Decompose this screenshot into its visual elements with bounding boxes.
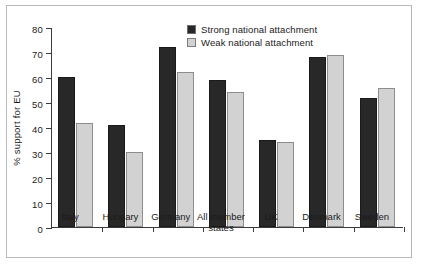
chart-legend: Strong national attachmentWeak national …	[187, 23, 317, 49]
y-tick-label: 70	[32, 49, 43, 60]
y-axis-title: % support for EU	[11, 90, 22, 166]
bar-group	[203, 28, 253, 227]
y-tick-mark: 0	[46, 228, 52, 229]
bar-weak	[378, 88, 395, 227]
legend-label: Weak national attachment	[201, 37, 313, 48]
x-separator-tick	[102, 227, 103, 232]
x-axis-label: Germany	[146, 212, 196, 223]
y-tick-label: 60	[32, 74, 43, 85]
y-tick-label: 10	[32, 199, 43, 210]
y-tick-label: 50	[32, 99, 43, 110]
x-separator-tick	[153, 227, 154, 232]
y-tick-label: 30	[32, 149, 43, 160]
bar-group	[253, 28, 303, 227]
legend-item: Strong national attachment	[187, 23, 317, 36]
x-separator-tick	[253, 227, 254, 232]
bar-strong	[159, 47, 176, 227]
x-separator-tick	[354, 227, 355, 232]
bar-strong	[309, 57, 326, 227]
x-axis-label: Italy	[45, 212, 95, 223]
bar-strong	[360, 98, 377, 227]
x-axis-label: Sweden	[347, 212, 397, 223]
bar-weak	[227, 92, 244, 227]
bar-series-container	[52, 28, 403, 227]
y-tick-label: 80	[32, 24, 43, 35]
bar-weak	[327, 55, 344, 228]
bar-group	[303, 28, 353, 227]
legend-swatch-weak	[187, 38, 196, 47]
plot-area: 01020304050607080	[51, 28, 403, 228]
bar-strong	[58, 77, 75, 227]
y-tick-label: 20	[32, 174, 43, 185]
bar-group	[102, 28, 152, 227]
x-axis-label: UK	[246, 212, 296, 223]
x-separator-tick	[404, 227, 405, 232]
chart-figure: % support for EU 01020304050607080 Italy…	[0, 0, 425, 270]
y-tick-label: 40	[32, 124, 43, 135]
bar-weak	[177, 72, 194, 227]
x-axis-label: Denmark	[296, 212, 346, 223]
y-tick-label: 0	[38, 224, 43, 235]
legend-item: Weak national attachment	[187, 36, 317, 49]
legend-swatch-strong	[187, 25, 196, 34]
bar-group	[354, 28, 404, 227]
legend-label: Strong national attachment	[201, 24, 317, 35]
x-axis-label: All member states	[196, 212, 246, 233]
x-axis-label: Hungary	[95, 212, 145, 223]
bar-strong	[209, 80, 226, 228]
x-separator-tick	[303, 227, 304, 232]
bar-group	[153, 28, 203, 227]
figure-frame: % support for EU 01020304050607080 Italy…	[6, 5, 412, 258]
bar-group	[52, 28, 102, 227]
